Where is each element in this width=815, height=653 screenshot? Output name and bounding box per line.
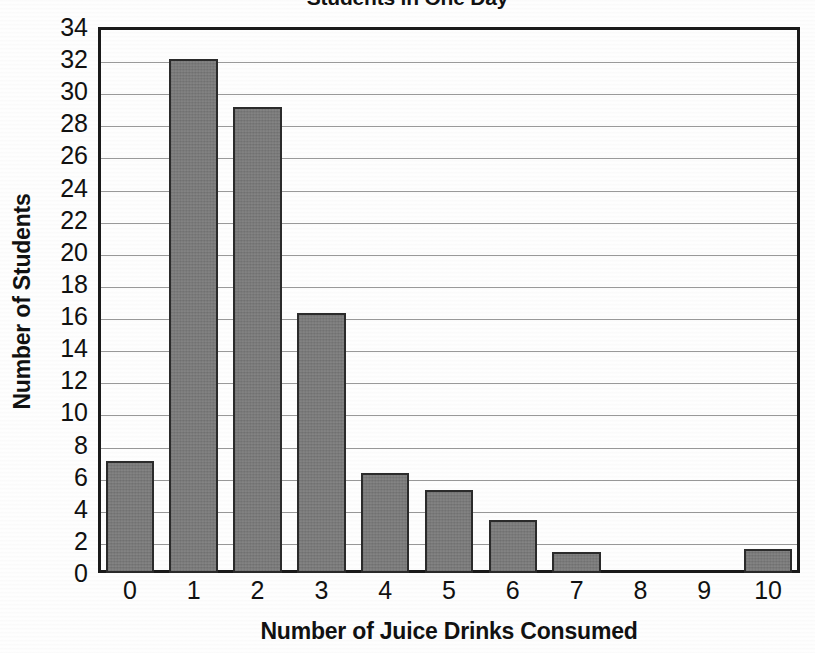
y-axis-tick-label: 14 (28, 336, 88, 361)
gridline (101, 512, 797, 513)
gridline (101, 448, 797, 449)
x-axis-tick-label: 1 (162, 578, 226, 603)
bar-chart: Students in One Day Number of Students 3… (0, 0, 815, 653)
gridline (101, 319, 797, 320)
gridline (101, 255, 797, 256)
y-axis-tick-label: 4 (28, 496, 88, 521)
y-axis-tick-label: 8 (28, 432, 88, 457)
gridline (101, 383, 797, 384)
gridline (101, 158, 797, 159)
x-axis-tick-label: 0 (98, 578, 162, 603)
y-axis-tick-label: 32 (28, 47, 88, 72)
x-axis-tick-label: 2 (226, 578, 290, 603)
plot-area (98, 27, 800, 573)
y-axis-tick-label: 28 (28, 111, 88, 136)
x-axis-tick-label: 3 (289, 578, 353, 603)
gridline (101, 351, 797, 352)
y-axis-tick-label: 10 (28, 400, 88, 425)
y-axis-tick-label: 12 (28, 368, 88, 393)
gridline (101, 94, 797, 95)
y-axis-tick-label: 2 (28, 528, 88, 553)
x-axis-tick-label: 4 (353, 578, 417, 603)
gridline (101, 415, 797, 416)
y-axis-tick-label: 30 (28, 79, 88, 104)
y-axis-tick-labels: 3432302826242220181614121086420 (20, 27, 88, 573)
gridline (101, 191, 797, 192)
y-axis-tick-label: 16 (28, 304, 88, 329)
x-axis-tick-label: 9 (672, 578, 736, 603)
y-axis-tick-label: 24 (28, 175, 88, 200)
y-axis-tick-label: 26 (28, 143, 88, 168)
x-axis-tick-label: 5 (417, 578, 481, 603)
gridline (101, 544, 797, 545)
y-axis-tick-label: 34 (28, 15, 88, 40)
x-axis-tick-label: 8 (609, 578, 673, 603)
y-axis-tick-label: 0 (28, 561, 88, 586)
x-axis-tick-label: 6 (481, 578, 545, 603)
gridline (101, 62, 797, 63)
y-axis-tick-label: 22 (28, 207, 88, 232)
y-axis-tick-label: 6 (28, 464, 88, 489)
gridline (101, 126, 797, 127)
x-axis-tick-labels: 012345678910 (98, 578, 800, 618)
gridline (101, 480, 797, 481)
y-axis-tick-label: 20 (28, 239, 88, 264)
gridlines (101, 30, 797, 570)
gridline (101, 223, 797, 224)
chart-title: Students in One Day (0, 0, 815, 10)
y-axis-tick-label: 18 (28, 271, 88, 296)
x-axis-tick-label: 10 (736, 578, 800, 603)
x-axis-title: Number of Juice Drinks Consumed (96, 618, 802, 645)
gridline (101, 287, 797, 288)
x-axis-tick-label: 7 (545, 578, 609, 603)
